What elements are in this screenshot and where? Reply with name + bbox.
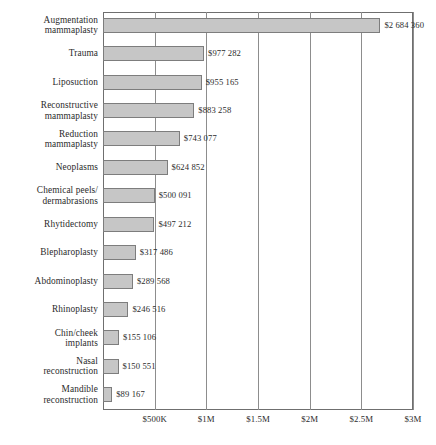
gridline-3m xyxy=(413,12,414,410)
bar xyxy=(103,160,168,175)
bar xyxy=(103,359,119,374)
category-label: Reduction mammaplasty xyxy=(45,129,98,150)
category-label: Chin/cheek implants xyxy=(55,328,98,349)
x-tick-label: $2.5M xyxy=(349,414,373,424)
category-label: Reconstructive mammaplasty xyxy=(41,100,98,121)
gridline-500k xyxy=(155,12,156,410)
y-axis-line xyxy=(103,12,104,410)
x-tick-label: $3M xyxy=(405,414,422,424)
category-label: Abdominoplasty xyxy=(35,276,98,286)
bar-value-label: $289 568 xyxy=(137,274,170,289)
bar-chart: $2 684 360$977 282$955 165$883 258$743 0… xyxy=(0,0,436,445)
category-label: Neoplasms xyxy=(56,162,98,172)
bar xyxy=(103,75,202,90)
category-label: Nasal reconstruction xyxy=(43,356,98,377)
bar-value-label: $500 091 xyxy=(159,188,192,203)
gridline-1m xyxy=(206,12,207,410)
bar-value-label: $624 852 xyxy=(172,160,205,175)
gridline-25m xyxy=(361,12,362,410)
bar-value-label: $317 486 xyxy=(140,245,173,260)
bar xyxy=(103,274,133,289)
bar xyxy=(103,330,119,345)
category-label: Trauma xyxy=(69,48,98,58)
bar xyxy=(103,46,204,61)
category-label: Rhinoplasty xyxy=(52,304,98,314)
category-label: Blepharoplasty xyxy=(40,247,98,257)
bar xyxy=(103,103,194,118)
x-tick-label: $1.5M xyxy=(246,414,270,424)
gridline-15m xyxy=(258,12,259,410)
category-label: Mandible reconstruction xyxy=(43,384,98,405)
bar xyxy=(103,131,180,146)
bar xyxy=(103,217,154,232)
bar-value-label: $150 551 xyxy=(123,359,156,374)
bar xyxy=(103,188,155,203)
category-label: Rhytidectomy xyxy=(44,219,98,229)
category-label: Chemical peels/ dermabrasions xyxy=(37,185,98,206)
bar-value-label: $2 684 360 xyxy=(384,18,424,33)
bar-value-label: $955 165 xyxy=(206,75,239,90)
x-tick-label: $2M xyxy=(301,414,318,424)
bar-value-label: $155 106 xyxy=(123,330,156,345)
bar-value-label: $497 212 xyxy=(158,217,191,232)
category-label: Liposuction xyxy=(52,77,98,87)
x-tick-label: $500K xyxy=(142,414,166,424)
bar xyxy=(103,18,380,33)
bar xyxy=(103,302,128,317)
bar xyxy=(103,245,136,260)
bar-value-label: $743 077 xyxy=(184,131,217,146)
bar-value-label: $977 282 xyxy=(208,46,241,61)
bar-value-label: $89 167 xyxy=(116,387,145,402)
category-label: Augmentation mammaplasty xyxy=(44,15,98,36)
bar-value-label: $883 258 xyxy=(198,103,231,118)
x-tick-label: $1M xyxy=(198,414,215,424)
bar-value-label: $246 516 xyxy=(132,302,165,317)
gridline-2m xyxy=(310,12,311,410)
bar xyxy=(103,387,112,402)
